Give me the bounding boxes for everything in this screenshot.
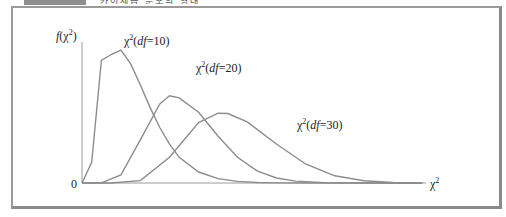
curve-df-20 (82, 96, 422, 183)
y-axis-label: f(χ2) (56, 29, 77, 42)
curve-df-10 (82, 50, 422, 183)
curve-label-df-20: χ2(df=20) (196, 61, 241, 74)
curve-label-df-10: χ2(df=10) (124, 34, 169, 47)
curve-label-df-30: χ2(df=30) (297, 118, 342, 131)
x-axis-label: χ2 (430, 177, 439, 190)
origin-label: 0 (71, 178, 77, 190)
curve-df-30 (82, 113, 422, 183)
